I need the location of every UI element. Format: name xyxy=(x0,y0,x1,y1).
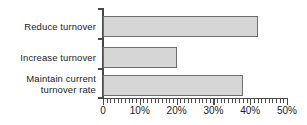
value-tick-minor xyxy=(129,99,130,103)
bar-maintain-current-turnover-rate xyxy=(103,75,243,96)
value-tick-minor xyxy=(118,99,119,103)
value-tick-minor xyxy=(107,99,108,103)
value-tick-major xyxy=(140,99,141,105)
category-tick xyxy=(98,8,103,10)
value-tick-label: 30% xyxy=(203,105,223,117)
value-tick-minor xyxy=(235,99,236,103)
value-tick-minor xyxy=(210,99,211,103)
bar-increase-turnover xyxy=(103,47,177,68)
value-tick-minor xyxy=(239,99,240,103)
value-tick-minor xyxy=(158,99,159,103)
value-tick-label: 0 xyxy=(100,105,106,117)
category-label-maintain-current-turnover-rate: Maintain current turnover rate xyxy=(26,73,96,95)
value-tick-label: 10% xyxy=(130,105,150,117)
value-tick-minor xyxy=(243,99,244,103)
value-tick-minor xyxy=(254,99,255,103)
value-tick-minor xyxy=(269,99,270,103)
value-tick-major xyxy=(250,99,251,105)
value-tick-minor xyxy=(202,99,203,103)
value-tick-minor xyxy=(247,99,248,103)
value-tick-label: 50% xyxy=(277,105,297,117)
value-tick-minor xyxy=(272,99,273,103)
value-tick-major xyxy=(287,99,288,105)
value-tick-minor xyxy=(121,99,122,103)
value-tick-minor xyxy=(125,99,126,103)
value-tick-minor xyxy=(173,99,174,103)
value-tick-minor xyxy=(276,99,277,103)
value-tick-minor xyxy=(166,99,167,103)
horizontal-bar-chart: Reduce turnover Increase turnover Mainta… xyxy=(0,0,307,125)
value-tick-minor xyxy=(114,99,115,103)
value-tick-minor xyxy=(143,99,144,103)
value-tick-minor xyxy=(283,99,284,103)
value-tick-minor xyxy=(188,99,189,103)
value-tick-minor xyxy=(265,99,266,103)
value-tick-minor xyxy=(195,99,196,103)
value-tick-minor xyxy=(191,99,192,103)
value-tick-minor xyxy=(228,99,229,103)
value-tick-minor xyxy=(280,99,281,103)
value-tick-minor xyxy=(151,99,152,103)
value-tick-minor xyxy=(180,99,181,103)
value-tick-minor xyxy=(132,99,133,103)
value-tick-major xyxy=(103,99,104,105)
value-tick-minor xyxy=(136,99,137,103)
value-tick-minor xyxy=(261,99,262,103)
value-tick-major xyxy=(177,99,178,105)
category-tick xyxy=(98,68,103,70)
value-tick-minor xyxy=(217,99,218,103)
value-tick-label: 40% xyxy=(240,105,260,117)
value-tick-minor xyxy=(224,99,225,103)
value-tick-minor xyxy=(169,99,170,103)
bar-reduce-turnover xyxy=(103,16,258,37)
value-tick-minor xyxy=(184,99,185,103)
value-tick-major xyxy=(213,99,214,105)
value-tick-minor xyxy=(147,99,148,103)
value-tick-minor xyxy=(155,99,156,103)
value-tick-minor xyxy=(206,99,207,103)
value-tick-minor xyxy=(221,99,222,103)
value-tick-minor xyxy=(258,99,259,103)
value-tick-minor xyxy=(199,99,200,103)
value-tick-minor xyxy=(110,99,111,103)
value-tick-label: 20% xyxy=(167,105,187,117)
value-tick-minor xyxy=(162,99,163,103)
category-label-increase-turnover: Increase turnover xyxy=(20,52,96,63)
category-axis-labels: Reduce turnover Increase turnover Mainta… xyxy=(0,0,100,98)
category-label-reduce-turnover: Reduce turnover xyxy=(24,21,96,32)
category-tick xyxy=(98,38,103,40)
value-tick-minor xyxy=(232,99,233,103)
plot-area xyxy=(103,8,287,98)
